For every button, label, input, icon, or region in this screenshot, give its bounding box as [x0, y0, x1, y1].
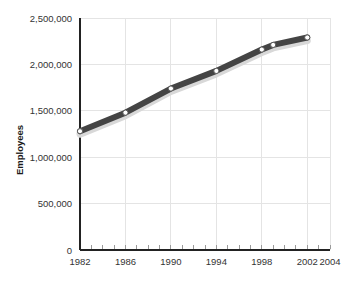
svg-text:500,000: 500,000: [38, 198, 72, 209]
data-point-marker: 1990: 1,740,000: [168, 86, 173, 91]
vertical-gridlines: [80, 18, 330, 250]
data-point-marker: 1986: 1,480,000: [123, 110, 128, 115]
svg-text:2,500,000: 2,500,000: [30, 13, 72, 24]
y-axis-title: Employees: [14, 125, 25, 175]
x-axis-tick-labels: 1982198619901994199820022004: [69, 256, 340, 267]
data-point-marker: 1994: 1,930,000: [214, 68, 219, 73]
chart-canvas: 0500,0001,000,0001,500,0002,000,0002,500…: [0, 0, 341, 281]
data-point-marker: 1998: 2,160,000: [259, 47, 264, 52]
svg-text:2,000,000: 2,000,000: [30, 59, 72, 70]
svg-text:1998: 1998: [251, 256, 272, 267]
svg-text:1,500,000: 1,500,000: [30, 105, 72, 116]
x-axis-minor-ticks: [80, 245, 330, 249]
svg-text:1994: 1994: [206, 256, 227, 267]
data-point-marker: 2002: 2,290,000: [305, 35, 310, 40]
svg-text:0: 0: [67, 245, 72, 256]
employees-line-chart: 0500,0001,000,0001,500,0002,000,0002,500…: [0, 0, 341, 281]
svg-text:2002: 2002: [297, 256, 318, 267]
svg-text:1,000,000: 1,000,000: [30, 152, 72, 163]
y-axis-tick-labels: 0500,0001,000,0001,500,0002,000,0002,500…: [30, 13, 72, 256]
svg-text:2004: 2004: [319, 256, 340, 267]
svg-text:1990: 1990: [160, 256, 181, 267]
data-point-marker: 1982: 1,280,000: [77, 129, 82, 134]
svg-text:1986: 1986: [115, 256, 136, 267]
svg-text:1982: 1982: [69, 256, 90, 267]
data-point-marker: 1999: 2,210,000: [271, 42, 276, 47]
